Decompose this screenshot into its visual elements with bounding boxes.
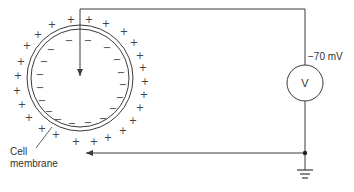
cell-membrane-label-line2: membrane [10, 158, 58, 169]
positive-charge: + [48, 19, 56, 30]
positive-charge: + [34, 29, 42, 40]
intracellular-negative-charges: −−−−−−−−−−−−−−−−−− [36, 35, 127, 129]
positive-charge: + [130, 37, 138, 48]
positive-charge: + [14, 70, 22, 81]
positive-charge: + [139, 62, 147, 73]
positive-charge: + [25, 112, 33, 123]
negative-charge: − [38, 95, 46, 106]
negative-charge: − [68, 118, 76, 129]
positive-charge: + [52, 129, 60, 140]
negative-charge: − [47, 44, 55, 55]
positive-charge: + [129, 115, 137, 126]
positive-charge: + [90, 136, 98, 147]
positive-charge: + [72, 136, 80, 147]
positive-charge: + [104, 132, 112, 143]
positive-charge: + [38, 123, 46, 134]
voltmeter-symbol: V [301, 77, 309, 89]
ground-icon [297, 170, 313, 178]
positive-charge: + [141, 76, 149, 87]
junction-dot [303, 151, 307, 155]
negative-charge: − [109, 103, 117, 114]
negative-charge: − [54, 114, 62, 125]
negative-charge: − [117, 67, 125, 78]
negative-charge: − [99, 113, 107, 124]
negative-charge: − [116, 92, 124, 103]
negative-charge: − [113, 54, 121, 65]
positive-charge: + [140, 89, 148, 100]
positive-charge: + [119, 125, 127, 136]
positive-charge: + [136, 102, 144, 113]
positive-charge: + [13, 85, 21, 96]
voltage-reading: −70 mV [308, 51, 343, 62]
negative-charge: − [45, 106, 53, 117]
negative-charge: − [84, 35, 92, 46]
positive-charge: + [85, 14, 93, 25]
positive-charge: + [67, 14, 75, 25]
positive-charge: + [23, 40, 31, 51]
negative-charge: − [103, 42, 111, 53]
negative-charge: − [36, 82, 44, 93]
positive-charge: + [102, 18, 110, 29]
negative-charge: − [119, 79, 127, 90]
negative-charge: − [84, 117, 92, 128]
voltmeter: V [287, 65, 323, 101]
negative-charge: − [65, 35, 73, 46]
positive-charge: + [136, 50, 144, 61]
membrane-potential-diagram: +++++++++++++++++++++++++ −−−−−−−−−−−−−−… [0, 0, 354, 192]
positive-charge: + [120, 26, 128, 37]
cell-membrane-label-line1: Cell [10, 146, 27, 157]
negative-charge: − [36, 69, 44, 80]
negative-charge: − [40, 56, 48, 67]
positive-charge: + [17, 56, 25, 67]
positive-charge: + [18, 99, 26, 110]
